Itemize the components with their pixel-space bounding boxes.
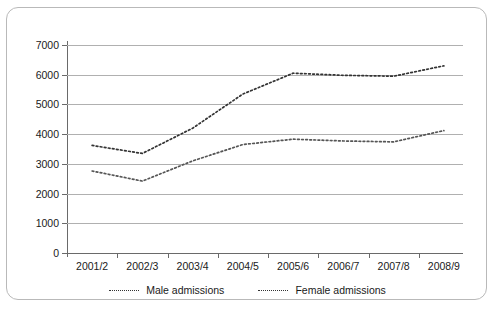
- x-axis-tick-label: 2002/3: [126, 260, 158, 272]
- y-axis-tick-label: 0: [53, 247, 59, 259]
- legend-label-female: Female admissions: [295, 284, 385, 296]
- legend-item-female[interactable]: Female admissions: [258, 284, 385, 296]
- x-axis-tick-mark: [168, 253, 169, 258]
- y-axis-labels: 01000200030004000500060007000: [7, 8, 59, 299]
- gridline: [67, 253, 463, 254]
- y-axis-tick-label: 4000: [36, 128, 59, 140]
- x-axis-tick-mark: [369, 253, 370, 258]
- y-axis-tick-label: 3000: [36, 158, 59, 170]
- x-axis-tick-mark: [318, 253, 319, 258]
- dotted-line-icon: [109, 290, 139, 291]
- series-line: [92, 131, 444, 182]
- legend-label-male: Male admissions: [146, 284, 224, 296]
- legend-item-male[interactable]: Male admissions: [109, 284, 224, 296]
- x-axis-tick-mark: [268, 253, 269, 258]
- y-axis-tick-label: 7000: [36, 39, 59, 51]
- y-axis-tick-label: 1000: [36, 217, 59, 229]
- x-axis-tick-label: 2003/4: [177, 260, 209, 272]
- y-axis-tick-label: 2000: [36, 188, 59, 200]
- y-axis-tick-label: 5000: [36, 98, 59, 110]
- dotted-line-icon: [258, 290, 288, 291]
- x-axis-tick-label: 2006/7: [327, 260, 359, 272]
- series-lines: [67, 45, 463, 253]
- series-line: [92, 66, 444, 154]
- chart-legend: Male admissions Female admissions: [7, 284, 488, 296]
- x-axis-tick-label: 2008/9: [428, 260, 460, 272]
- x-axis-tick-label: 2004/5: [227, 260, 259, 272]
- x-axis-tick-mark: [218, 253, 219, 258]
- x-axis-tick-mark: [117, 253, 118, 258]
- x-axis-tick-label: 2001/2: [76, 260, 108, 272]
- plot-area: [67, 45, 463, 253]
- x-axis-tick-label: 2007/8: [378, 260, 410, 272]
- y-axis-tick-label: 6000: [36, 69, 59, 81]
- chart-frame: 01000200030004000500060007000 2001/22002…: [6, 7, 487, 300]
- x-axis-tick-mark: [419, 253, 420, 258]
- x-axis-tick-label: 2005/6: [277, 260, 309, 272]
